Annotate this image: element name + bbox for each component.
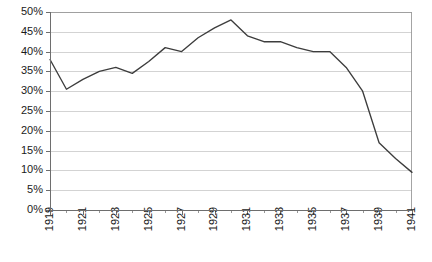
y-tick-label-20: 20% bbox=[21, 124, 43, 136]
y-tick-label-15: 15% bbox=[21, 144, 43, 156]
y-tick-label-0: 0% bbox=[27, 203, 43, 215]
y-tick-label-10: 10% bbox=[21, 163, 43, 175]
y-tick-label-45: 45% bbox=[21, 25, 43, 37]
y-tick-label-25: 25% bbox=[21, 104, 43, 116]
y-tick-label-50: 50% bbox=[21, 5, 43, 17]
y-tick-label-30: 30% bbox=[21, 84, 43, 96]
line-chart: 0%5%10%15%20%25%30%35%40%45%50% 19191921… bbox=[0, 0, 432, 262]
y-tick-label-5: 5% bbox=[27, 183, 43, 195]
plot-area-background bbox=[50, 12, 412, 210]
y-tick-label-40: 40% bbox=[21, 45, 43, 57]
chart-container: 0%5%10%15%20%25%30%35%40%45%50% 19191921… bbox=[0, 0, 432, 262]
y-tick-label-35: 35% bbox=[21, 64, 43, 76]
